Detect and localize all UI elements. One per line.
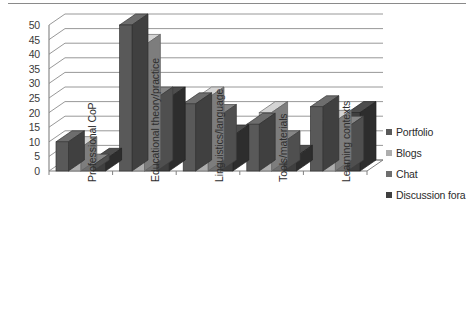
x-category-label-2: Linguistics/language (213, 89, 225, 182)
y-tick-label-35: 35 (14, 64, 40, 74)
legend-label: Blogs (396, 147, 422, 159)
legend-label: Discussion fora (396, 189, 466, 201)
legend-swatch-icon (386, 171, 392, 177)
y-tick-label-40: 40 (14, 49, 40, 59)
legend-swatch-icon (386, 129, 392, 135)
y-tick-label-10: 10 (14, 137, 40, 147)
bar-portfolio-cat-4 (310, 96, 338, 171)
legend-item-discussion-fora[interactable]: Discussion fora (386, 184, 472, 205)
x-category-label-3: Tools/materials (277, 113, 289, 182)
y-tick-label-25: 25 (14, 93, 40, 103)
y-tick-label-5: 5 (14, 151, 40, 161)
x-category-label-4: Learning contexts (340, 101, 352, 182)
legend-label: Portfolio (396, 126, 433, 138)
bar-portfolio-cat-3 (247, 113, 275, 171)
y-tick-label-30: 30 (14, 78, 40, 88)
gridline-depth-50 (49, 14, 65, 25)
gridline-depth-35 (49, 58, 65, 69)
bar-portfolio-cat-1 (120, 14, 148, 171)
y-tick-label-45: 45 (14, 35, 40, 45)
y-tick-label-20: 20 (14, 108, 40, 118)
gridline-depth-25 (49, 87, 65, 98)
gridline-depth-45 (49, 29, 65, 40)
y-tick-label-50: 50 (14, 20, 40, 30)
legend-swatch-icon (386, 150, 392, 156)
legend-item-blogs[interactable]: Blogs (386, 142, 472, 163)
gridline-depth-30 (49, 72, 65, 83)
legend-swatch-icon (386, 192, 392, 198)
x-category-label-1: Educational theory/practice (149, 58, 161, 182)
gridline-depth-40 (49, 43, 65, 54)
legend-item-chat[interactable]: Chat (386, 163, 472, 184)
y-tick-label-15: 15 (14, 122, 40, 132)
x-category-label-0: Professional CoP (86, 102, 98, 182)
chart-legend: PortfolioBlogsChatDiscussion fora (386, 121, 472, 205)
bar-portfolio-cat-2 (183, 93, 211, 171)
legend-label: Chat (396, 168, 418, 180)
y-tick-label-0: 0 (14, 166, 40, 176)
gridline-depth-20 (49, 102, 65, 113)
chart-figure: 50454035302520151050 Professional CoPEdu… (0, 0, 474, 319)
legend-item-portfolio[interactable]: Portfolio (386, 121, 472, 142)
gridline-depth-15 (49, 116, 65, 127)
